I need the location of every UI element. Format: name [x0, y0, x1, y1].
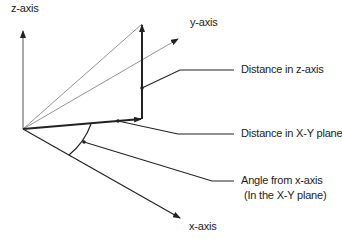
x-axis-line	[23, 129, 180, 218]
xy-distance-leader	[118, 121, 234, 134]
xy-plane-distance-line	[23, 119, 141, 129]
angle-label-line2: (In the X-Y plane)	[244, 189, 326, 201]
y-axis-line	[23, 39, 178, 129]
x-axis-label: x-axis	[189, 220, 217, 232]
angle-leader	[84, 142, 234, 181]
xy-distance-label: Distance in X-Y plane	[241, 127, 342, 139]
z-distance-label: Distance in z-axis	[241, 63, 324, 75]
z-distance-leader	[142, 70, 234, 88]
z-axis-label: z-axis	[11, 2, 39, 14]
angle-arc	[69, 124, 91, 155]
vector-line	[23, 24, 142, 129]
angle-label-line1: Angle from x-axis	[241, 174, 323, 186]
y-axis-label: y-axis	[190, 16, 218, 28]
